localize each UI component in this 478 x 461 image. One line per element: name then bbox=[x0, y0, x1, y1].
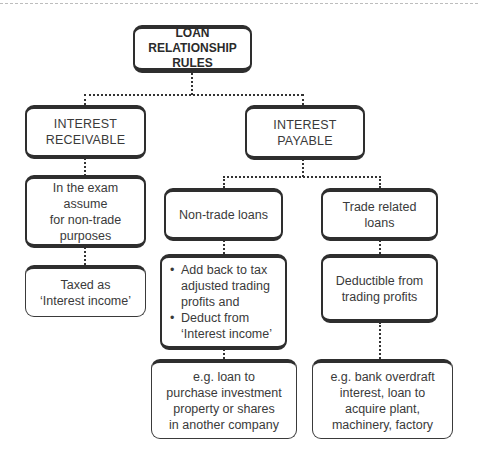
deductible-line-1: Deductible from bbox=[336, 273, 424, 289]
taxed-as-interest-income-box: Taxed as ‘Interest income’ bbox=[25, 265, 146, 317]
connector-level1-horizontal bbox=[84, 94, 303, 96]
title-line-2: RELATIONSHIP RULES bbox=[141, 41, 244, 71]
payable-heading-line-2: PAYABLE bbox=[273, 133, 336, 149]
receivable-heading-line-1: INTEREST bbox=[46, 116, 126, 132]
trade-label: Trade related loans bbox=[329, 199, 430, 231]
non-trade-treatment-box: Add back to tax adjusted trading profits… bbox=[160, 254, 287, 350]
non-trade-example-line-3: property or shares bbox=[166, 401, 281, 417]
assumption-line-3: purposes bbox=[33, 228, 138, 244]
non-trade-example-line-4: in another company bbox=[166, 417, 281, 433]
loan-relationship-rules-box: LOAN RELATIONSHIP RULES bbox=[133, 25, 252, 73]
non-trade-example-line-1: e.g. loan to bbox=[166, 369, 281, 385]
receivable-heading-line-2: RECEIVABLE bbox=[46, 132, 126, 148]
assumption-line-2: for non-trade bbox=[33, 212, 138, 228]
page-top-dashed-rule bbox=[0, 3, 478, 4]
non-trade-example-box: e.g. loan to purchase investment propert… bbox=[151, 359, 297, 439]
non-trade-loans-box: Non-trade loans bbox=[164, 188, 283, 241]
interest-receivable-box: INTEREST RECEIVABLE bbox=[25, 105, 146, 159]
connector-non-trade-to-bullets bbox=[223, 240, 225, 254]
trade-example-line-4: machinery, factory bbox=[330, 417, 434, 433]
trade-example-line-3: acquire plant, bbox=[330, 401, 434, 417]
non-trade-bullet-add-back: Add back to tax adjusted trading profits… bbox=[170, 262, 279, 310]
connector-receivable-to-assumption bbox=[84, 158, 86, 176]
trade-example-line-1: e.g. bank overdraft bbox=[330, 369, 434, 385]
connector-to-receivable bbox=[84, 94, 86, 105]
connector-deductible-to-example bbox=[379, 322, 381, 359]
exam-assumption-box: In the exam assume for non-trade purpose… bbox=[25, 175, 146, 248]
taxed-line-2: ‘Interest income’ bbox=[40, 293, 131, 309]
taxed-line-1: Taxed as bbox=[40, 277, 131, 293]
payable-heading-line-1: INTEREST bbox=[273, 117, 336, 133]
trade-example-box: e.g. bank overdraft interest, loan to ac… bbox=[312, 359, 453, 439]
non-trade-treatment-list: Add back to tax adjusted trading profits… bbox=[170, 262, 279, 342]
deductible-from-trading-profits-box: Deductible from trading profits bbox=[321, 254, 438, 323]
connector-level2-horizontal bbox=[223, 176, 381, 178]
trade-related-loans-box: Trade related loans bbox=[321, 188, 438, 241]
connector-to-trade bbox=[379, 176, 381, 188]
connector-payable-down bbox=[302, 159, 304, 177]
trade-example-line-2: interest, loan to bbox=[330, 385, 434, 401]
connector-to-non-trade bbox=[223, 176, 225, 188]
deductible-line-2: trading profits bbox=[336, 289, 424, 305]
connector-to-payable bbox=[302, 94, 304, 105]
connector-assumption-to-taxed bbox=[84, 247, 86, 265]
assumption-line-1: In the exam assume bbox=[33, 180, 138, 212]
connector-title-down bbox=[191, 73, 193, 95]
non-trade-label: Non-trade loans bbox=[179, 207, 268, 223]
title-line-1: LOAN bbox=[141, 26, 244, 41]
connector-bullets-to-example bbox=[223, 349, 225, 359]
interest-payable-box: INTEREST PAYABLE bbox=[245, 105, 365, 160]
non-trade-bullet-deduct: Deduct from ‘Interest income’ bbox=[170, 310, 279, 342]
non-trade-example-line-2: purchase investment bbox=[166, 385, 281, 401]
connector-trade-to-deductible bbox=[379, 240, 381, 254]
